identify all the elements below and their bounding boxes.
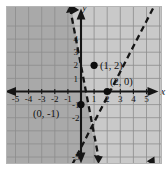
x-tick-4: 4 — [131, 94, 136, 104]
x-tick--3: -3 — [38, 94, 46, 104]
x-tick-1: 1 — [92, 94, 97, 104]
y-tick--1: -1 — [72, 100, 80, 110]
y-tick--2: -2 — [72, 113, 80, 123]
y-tick-1: 1 — [74, 74, 79, 84]
point-1-2 — [91, 62, 98, 69]
y-tick-2: 2 — [74, 60, 79, 70]
x-tick-3: 3 — [118, 94, 123, 104]
x-tick--1: -1 — [64, 94, 72, 104]
point-label-1-2: (1, 2) — [100, 60, 123, 72]
x-tick-2: 2 — [105, 94, 110, 104]
y-tick-4: 4 — [74, 34, 79, 44]
x-tick--4: -4 — [25, 94, 33, 104]
point-label-0-neg1: (0, -1) — [33, 108, 60, 120]
x-tick--2: -2 — [51, 94, 59, 104]
y-tick-3: 3 — [74, 47, 79, 57]
x-axis-label: x — [160, 86, 166, 97]
coordinate-plane-svg: -5 -4 -3 -2 -1 1 2 3 4 5 4 3 2 1 -1 -2 -… — [0, 0, 168, 170]
graph-figure: -5 -4 -3 -2 -1 1 2 3 4 5 4 3 2 1 -1 -2 -… — [0, 0, 168, 170]
point-label-2-0: (2, 0) — [110, 76, 133, 88]
y-tick--5: -5 — [72, 152, 80, 162]
x-tick-5: 5 — [144, 94, 149, 104]
x-tick--5: -5 — [12, 94, 20, 104]
